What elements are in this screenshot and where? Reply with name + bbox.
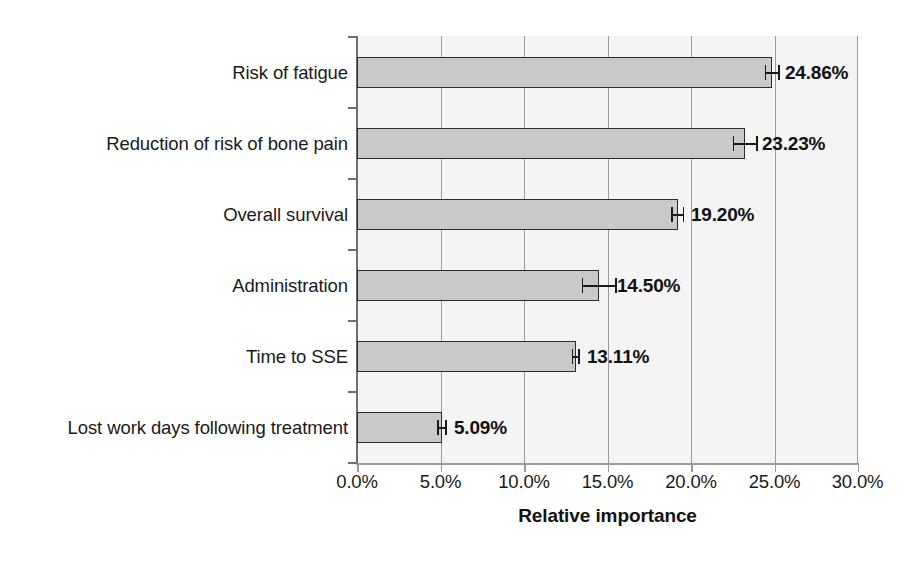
gridline-20 xyxy=(691,36,692,463)
gridline-30 xyxy=(857,36,858,463)
value-label-time-to-sse: 13.11% xyxy=(587,347,649,366)
error-bar-time-to-sse xyxy=(572,349,580,364)
category-label-risk-of-fatigue: Risk of fatigue xyxy=(18,64,348,83)
y-axis-tick xyxy=(348,249,357,251)
error-bar-administration xyxy=(582,278,617,293)
gridline-10 xyxy=(524,36,525,463)
bar-overall-survival xyxy=(357,199,678,230)
gridline-5 xyxy=(441,36,442,463)
y-axis-tick xyxy=(348,320,357,322)
category-label-reduction-of-risk-of-bone-pain: Reduction of risk of bone pain xyxy=(18,135,348,154)
bar-administration xyxy=(357,270,599,301)
y-axis-tick xyxy=(348,36,357,38)
x-axis-title: Relative importance xyxy=(357,505,858,527)
error-bar-overall-survival xyxy=(671,207,684,222)
error-bar-reduction-of-risk-of-bone-pain xyxy=(733,136,758,151)
gridline-15 xyxy=(608,36,609,463)
y-axis-tick xyxy=(348,391,357,393)
value-label-risk-of-fatigue: 24.86% xyxy=(785,63,848,82)
value-label-reduction-of-risk-of-bone-pain: 23.23% xyxy=(762,134,825,153)
category-label-lost-work-days-following-treatment: Lost work days following treatment xyxy=(18,419,348,438)
bar-lost-work-days-following-treatment xyxy=(357,412,442,443)
category-label-administration: Administration xyxy=(18,277,348,296)
error-bar-risk-of-fatigue xyxy=(765,65,780,80)
bar-reduction-of-risk-of-bone-pain xyxy=(357,128,745,159)
relative-importance-bar-chart: Risk of fatigue Reduction of risk of bon… xyxy=(0,0,920,561)
x-tick-label-6: 30.0% xyxy=(798,473,918,492)
bar-risk-of-fatigue xyxy=(357,57,772,88)
gridline-25 xyxy=(775,36,776,463)
value-label-administration: 14.50% xyxy=(617,276,680,295)
error-bar-lost-work-days-following-treatment xyxy=(437,420,447,435)
category-label-time-to-sse: Time to SSE xyxy=(18,348,348,367)
plot-area xyxy=(357,36,858,463)
value-label-overall-survival: 19.20% xyxy=(691,205,754,224)
bar-time-to-sse xyxy=(357,341,576,372)
y-axis-tick xyxy=(348,107,357,109)
value-label-lost-work-days-following-treatment: 5.09% xyxy=(454,418,507,437)
y-axis-tick xyxy=(348,178,357,180)
category-label-overall-survival: Overall survival xyxy=(18,206,348,225)
y-axis-tick xyxy=(348,462,357,464)
